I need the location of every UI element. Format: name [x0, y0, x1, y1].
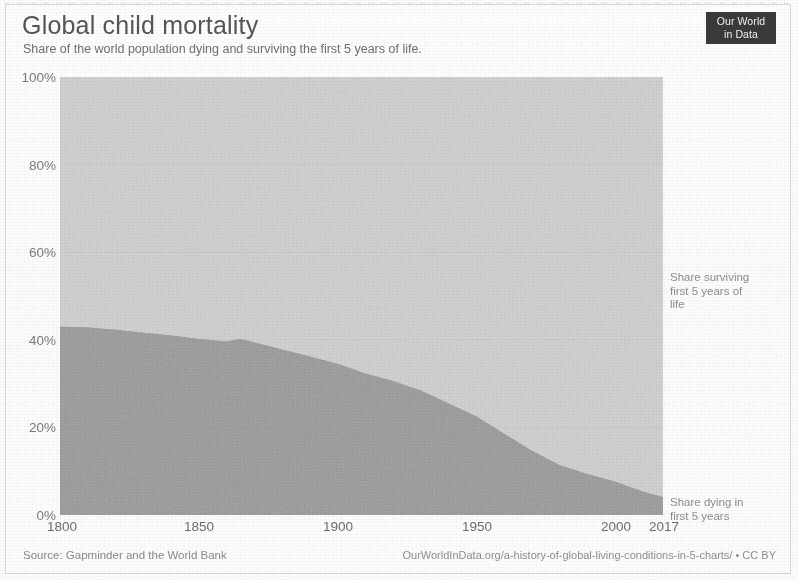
- series-label-dying: Share dying in first 5 years: [670, 496, 744, 523]
- x-tick-1950: 1950: [462, 519, 492, 534]
- series-label-surviving-line3: life: [670, 298, 749, 312]
- series-label-surviving: Share surviving first 5 years of life: [670, 271, 749, 312]
- series-label-surviving-line2: first 5 years of: [670, 285, 749, 299]
- credit-note: OurWorldInData.org/a-history-of-global-l…: [402, 549, 776, 561]
- y-tick-80: 80%: [4, 158, 56, 173]
- y-tick-100: 100%: [4, 70, 56, 85]
- x-tick-2000: 2000: [601, 519, 631, 534]
- plot-area: [60, 77, 663, 515]
- x-tick-1850: 1850: [184, 519, 214, 534]
- series-label-dying-line1: Share dying in: [670, 496, 744, 510]
- x-tick-1900: 1900: [323, 519, 353, 534]
- series-label-dying-line2: first 5 years: [670, 510, 744, 524]
- area-chart-svg: [60, 77, 663, 515]
- y-tick-60: 60%: [4, 245, 56, 260]
- y-tick-40: 40%: [4, 333, 56, 348]
- stacked-area-chart: 100% 80% 60% 40% 20% 0%: [0, 0, 798, 580]
- series-label-surviving-line1: Share surviving: [670, 271, 749, 285]
- y-tick-20: 20%: [4, 420, 56, 435]
- x-tick-1800: 1800: [47, 519, 77, 534]
- y-axis-tick-labels: 100% 80% 60% 40% 20% 0%: [0, 0, 56, 580]
- source-note: Source: Gapminder and the World Bank: [23, 549, 227, 561]
